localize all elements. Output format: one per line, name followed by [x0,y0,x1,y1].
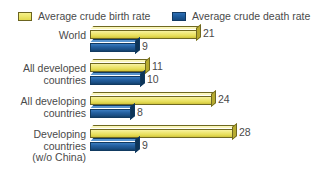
bar-top-bevel [91,59,150,62]
bar-body [90,43,136,52]
legend-item-death-rate[interactable]: Average crude death rate [172,6,310,26]
bar-value-label: 8 [137,106,143,118]
legend-swatch-death-rate-icon [172,12,186,21]
chart-legend: Average crude birth rate Average crude d… [0,6,322,26]
category-label: All developed countries [0,63,86,86]
bar-top-bevel [91,138,140,141]
bar-top-bevel [91,92,216,95]
category-label: All developing countries [0,96,86,119]
bar-end-cap [211,90,216,107]
bar-chart: Average crude birth rate Average crude d… [0,0,322,182]
bar-end-cap [135,136,140,153]
bar-body [90,30,197,39]
bar-end-cap [135,37,140,54]
bar-body [90,96,212,105]
bar-end-cap [145,57,150,74]
legend-item-birth-rate[interactable]: Average crude birth rate [18,6,150,26]
category-label: World [0,30,86,42]
bar-value-label: 10 [147,73,159,85]
legend-label-birth-rate: Average crude birth rate [38,10,150,22]
legend-label-death-rate: Average crude death rate [192,10,310,22]
legend-swatch-birth-rate-icon [18,12,32,21]
bar-top-bevel [91,125,237,128]
bar-end-cap [196,24,201,41]
bar-end-cap [232,123,237,140]
bar-end-cap [140,70,145,87]
bar-top-bevel [91,26,201,29]
bar-body [90,63,146,72]
bar-value-label: 9 [142,40,148,52]
bar-body [90,109,131,118]
plot-area: World219All developed countries1110All d… [0,28,322,178]
bar-value-label: 11 [152,60,163,72]
bar-body [90,76,141,85]
bar-value-label: 24 [218,93,230,105]
bar-body [90,129,233,138]
bar-value-label: 9 [142,139,148,151]
category-label: Developing countries (w/o China) [0,129,86,164]
bar-body [90,142,136,151]
bar-top-bevel [91,39,140,42]
bar-top-bevel [91,105,135,108]
bar-top-bevel [91,72,145,75]
bar-value-label: 28 [239,126,251,138]
bar-end-cap [130,103,135,120]
bar-value-label: 21 [203,27,215,39]
